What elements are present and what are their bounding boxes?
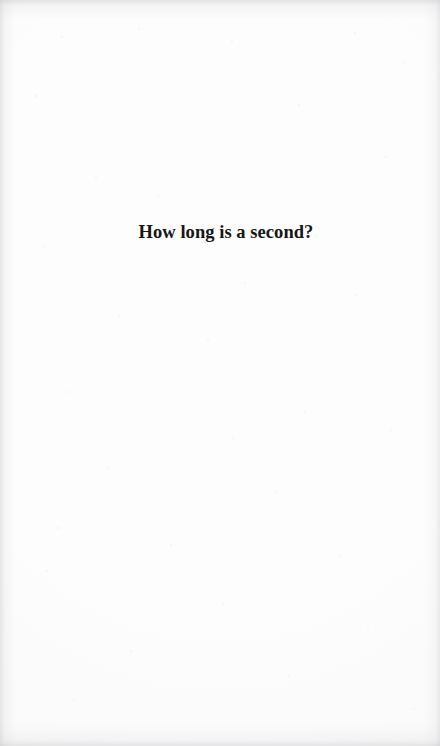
page-title: How long is a second? bbox=[139, 222, 314, 243]
page-heading-line: How long is a second? bbox=[0, 222, 440, 243]
scanned-page: How long is a second? bbox=[0, 0, 440, 746]
paper-background bbox=[0, 0, 440, 746]
